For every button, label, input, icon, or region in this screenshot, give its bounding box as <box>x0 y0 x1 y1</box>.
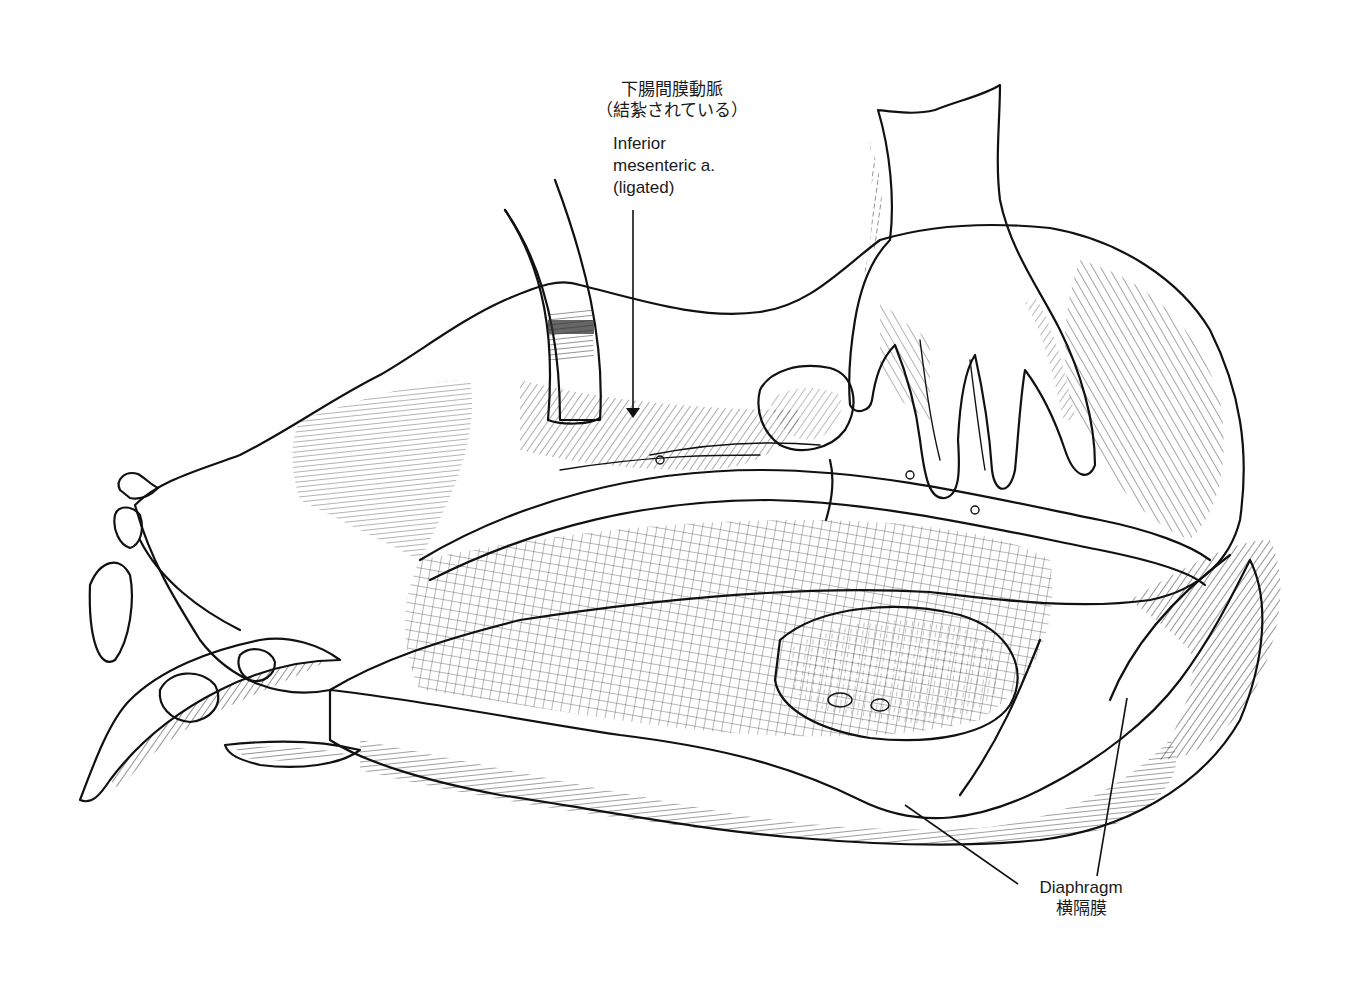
retractor <box>505 180 601 424</box>
anatomical-illustration: 下腸間膜動脈 （結紮されている） Inferior mesenteric a. … <box>0 0 1361 994</box>
ima-label-english: Inferior mesenteric a. (ligated) <box>613 133 715 199</box>
held-bowel <box>758 366 853 450</box>
ima-label-japanese: 下腸間膜動脈 （結紮されている） <box>582 79 762 121</box>
diaphragm-label-english: Diaphragm <box>1022 877 1140 898</box>
ima-label-en-line3: (ligated) <box>613 177 715 199</box>
pelvic-structures-left <box>80 473 360 801</box>
ima-label-jp-line1: 下腸間膜動脈 <box>582 79 762 100</box>
surgeon-hand <box>849 85 1095 498</box>
ima-label-en-line1: Inferior <box>613 133 715 155</box>
mesentery-body <box>135 225 1244 736</box>
diaphragm-label-japanese: 横隔膜 <box>1022 898 1140 919</box>
ima-label-jp-line2: （結紮されている） <box>582 100 762 121</box>
ima-label-en-line2: mesenteric a. <box>613 155 715 177</box>
diaphragm-label: Diaphragm 横隔膜 <box>1022 877 1140 919</box>
